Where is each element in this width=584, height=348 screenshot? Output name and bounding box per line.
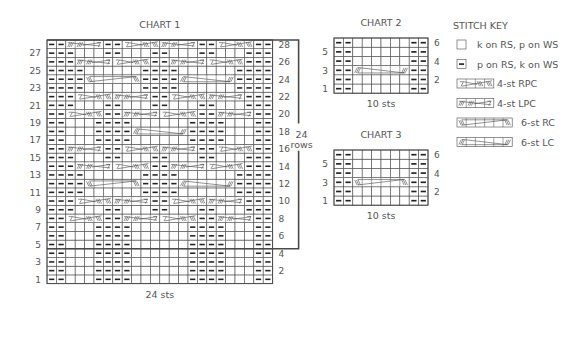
purl-cell [254,144,263,153]
purl-cell [244,188,253,197]
purl-dash [256,279,261,281]
knit-cell [66,266,75,275]
purl-cell [103,275,112,284]
purl-dash [162,209,167,211]
purl-dash [49,70,54,72]
purl-cell [113,231,122,240]
purl-dash [68,157,73,159]
purl-cell [197,127,206,136]
knit-cell [207,171,216,180]
knit-cell [132,49,141,58]
purl-cell [244,101,253,110]
key-item-rpc: 4-st RPC [457,78,537,89]
purl-cell [150,84,159,93]
purl-dash [336,51,341,53]
purl-cell [150,75,159,84]
purl-dash [246,183,251,185]
purl-cell [263,214,272,223]
knit-cell [169,136,178,145]
purl-cell [47,101,56,110]
purl-cell [150,179,159,188]
purl-cell [207,223,216,232]
knit-cell [244,258,253,267]
purl-cell [47,92,56,101]
knit-cell [169,205,178,214]
knit-cell [390,47,399,56]
purl-cell [419,187,428,196]
purl-cell [113,144,122,153]
purl-dash [265,200,270,202]
chart-row [47,136,273,145]
purl-cell [197,240,206,249]
purl-cell [47,66,56,75]
purl-cell [103,266,112,275]
row-number-even: 16 [279,144,291,154]
knit-cell [353,56,362,65]
purl-dash [143,87,148,89]
purl-dash [162,183,167,185]
purl-dash [246,78,251,80]
knit-cell [372,75,381,84]
purl-dash [256,165,261,167]
purl-cell [66,179,75,188]
purl-dash [152,70,157,72]
purl-cell [103,240,112,249]
knit-cell [381,56,390,65]
knit-cell [381,196,390,205]
purl-cell [122,118,131,127]
purl-dash [256,87,261,89]
purl-cell [263,40,272,49]
purl-cell [122,136,131,145]
purl-dash [218,122,223,124]
purl-cell [56,223,65,232]
purl-dash [58,105,63,107]
knit-cell [179,49,188,58]
purl-cell [113,49,122,58]
knit-cell [235,266,244,275]
knit-cell [113,84,122,93]
knit-cell [85,240,94,249]
purl-cell [409,84,418,93]
knit-cell [390,84,399,93]
purl-dash [105,131,110,133]
knit-cell [75,223,84,232]
purl-dash [246,96,251,98]
purl-dash [49,192,54,194]
purl-dash [218,270,223,272]
row-number-odd: 3 [322,178,328,188]
purl-cell [419,75,428,84]
purl-dash [345,154,350,156]
knit-cell [244,127,253,136]
purl-cell [56,266,65,275]
purl-cell [409,38,418,47]
knit-cell [141,240,150,249]
purl-dash [199,235,204,237]
knit-cell [226,153,235,162]
chart-2: CHART 212345610 sts [322,17,440,109]
purl-cell [188,136,197,145]
purl-cell [235,75,244,84]
chart-row [334,187,428,196]
purl-dash [421,172,426,174]
purl-cell [169,179,178,188]
knit-cell [94,101,103,110]
knit-cell [85,258,94,267]
purl-dash [256,113,261,115]
purl-dash [68,105,73,107]
purl-dash [411,191,416,193]
chart-row [47,171,273,180]
purl-dash [96,261,101,263]
knit-cell [160,275,169,284]
purl-dash [105,252,110,254]
rpc-cable [216,144,254,153]
knit-cell [94,49,103,58]
purl-dash [171,192,176,194]
purl-cell [66,49,75,58]
purl-dash [68,78,73,80]
purl-cell [141,179,150,188]
purl-dash [237,70,242,72]
knit-cell [169,223,178,232]
knit-cell [226,240,235,249]
purl-cell [66,92,75,101]
purl-cell [169,84,178,93]
